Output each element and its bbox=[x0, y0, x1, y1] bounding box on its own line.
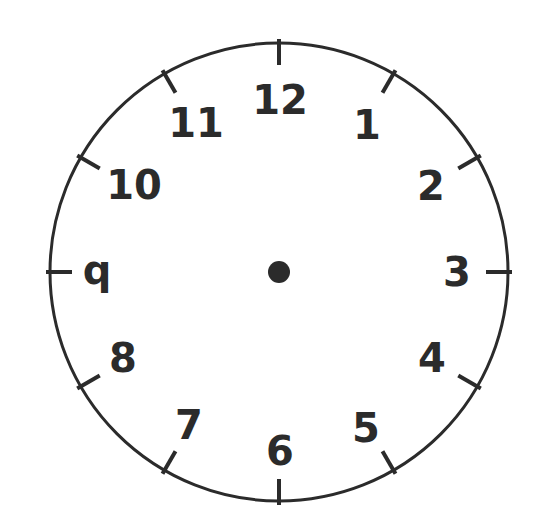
hour-number-9: q bbox=[83, 247, 112, 293]
hour-number-5: 5 bbox=[352, 405, 380, 451]
hour-number-10: 10 bbox=[106, 162, 162, 208]
hour-number-8: 8 bbox=[109, 335, 137, 381]
hour-number-2: 2 bbox=[417, 163, 445, 209]
hour-number-11: 11 bbox=[168, 100, 224, 146]
hour-number-1: 1 bbox=[353, 102, 381, 148]
hour-number-6: 6 bbox=[266, 428, 294, 474]
hour-number-12: 12 bbox=[252, 77, 308, 123]
hour-number-4: 4 bbox=[418, 335, 446, 381]
center-pivot-dot bbox=[268, 261, 290, 283]
clock-face: 12 1 2 3 4 5 6 7 8 q 10 11 bbox=[0, 0, 536, 531]
hour-number-7: 7 bbox=[175, 402, 203, 448]
hour-number-3: 3 bbox=[443, 249, 471, 295]
